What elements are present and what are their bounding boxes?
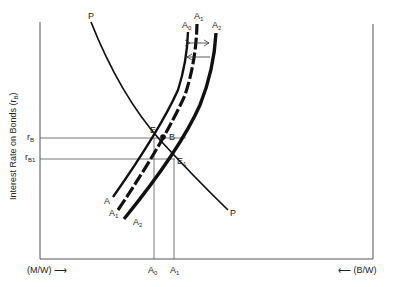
a0-top-label: A0 [182, 20, 192, 31]
p-curve [91, 22, 228, 210]
rb1-tick-label: rB1 [25, 152, 36, 163]
point-b-label: B [169, 132, 175, 142]
a2-bottom-label: A2 [133, 217, 143, 228]
point-e1-label: E1 [177, 156, 187, 167]
x-axis-left-label: (M/W) ⟶ [27, 265, 67, 275]
x-axis-right-label: ⟵ (B/W) [338, 265, 377, 275]
asset-market-diagram: P P A0 A1 A2 A A1 A2 E B E1 rB rB1 A0 A1… [0, 0, 394, 287]
a1-top-label: A1 [194, 11, 204, 22]
a1-dashed-curve [118, 24, 197, 210]
a-bottom-label: A [104, 196, 110, 206]
p-top-label: P [88, 11, 94, 21]
rb-tick-label: rB [27, 132, 34, 143]
p-bottom-label: P [230, 208, 236, 218]
a1-tick-label: A1 [170, 265, 180, 276]
point-b-dot [160, 134, 166, 140]
y-axis-title: Interest Rate on Bonds (rB) [8, 92, 19, 200]
point-e-label: E [150, 125, 156, 135]
a2-top-label: A2 [212, 20, 222, 31]
a0-tick-label: A0 [148, 265, 158, 276]
